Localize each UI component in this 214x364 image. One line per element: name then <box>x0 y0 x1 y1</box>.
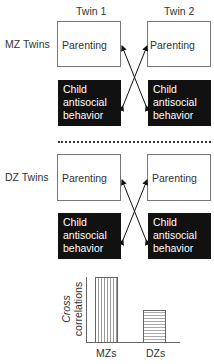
x-tick-dz: DZs <box>146 347 165 359</box>
bar-dz <box>143 310 166 343</box>
bar-mz <box>95 277 118 343</box>
y-label-line: Cross <box>60 278 72 340</box>
chart-y-label: Cross correlations <box>60 278 84 340</box>
chart-y-axis <box>86 277 87 342</box>
x-tick-mz: MZs <box>96 347 116 359</box>
y-label-line: correlations <box>72 278 84 340</box>
